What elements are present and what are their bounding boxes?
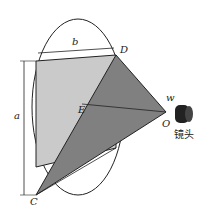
label-C: C [30, 196, 38, 207]
label-a: a [14, 110, 20, 121]
dim-b [38, 48, 114, 53]
label-E: E [78, 104, 85, 115]
diagram [0, 0, 206, 210]
label-b: b [72, 36, 78, 47]
label-w: w [166, 92, 175, 103]
label-lens: 镜头 [174, 126, 194, 141]
lens-icon [175, 105, 193, 123]
label-D: D [120, 44, 128, 55]
label-O: O [162, 118, 170, 129]
